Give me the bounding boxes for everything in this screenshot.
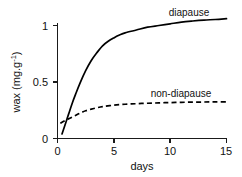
axes <box>57 23 227 139</box>
y-axis-title-close: ) <box>10 51 22 55</box>
x-tick-label-0: 0 <box>54 145 60 157</box>
wax-accumulation-chart: 1 0.5 0 0 5 10 15 days wax (mg.g-1) <box>0 0 242 177</box>
series-label-non-diapause: non-diapause <box>151 88 212 99</box>
y-tick-label-0: 0 <box>42 133 48 145</box>
x-axis-ticks: 0 5 10 15 <box>54 139 232 158</box>
y-axis-title: wax (mg.g-1) <box>9 51 22 113</box>
y-axis-title-superscript: -1 <box>9 55 18 62</box>
data-series <box>60 19 226 134</box>
x-tick-label-15: 15 <box>220 145 232 157</box>
series-line-non-diapause <box>60 102 226 123</box>
y-tick-label-1: 1 <box>42 20 48 32</box>
series-label-diapause: diapause <box>169 7 210 18</box>
x-tick-label-10: 10 <box>164 145 176 157</box>
chart-canvas: 1 0.5 0 0 5 10 15 days wax (mg.g-1) <box>0 0 242 177</box>
series-line-diapause <box>62 19 226 134</box>
y-axis-title-base: wax (mg.g <box>10 62 22 114</box>
y-tick-label-0.5: 0.5 <box>33 76 48 88</box>
x-axis-title: days <box>130 160 154 172</box>
x-tick-label-5: 5 <box>111 145 117 157</box>
y-axis-ticks: 1 0.5 0 <box>33 20 58 145</box>
y-axis-title-group: wax (mg.g-1) <box>9 51 22 113</box>
